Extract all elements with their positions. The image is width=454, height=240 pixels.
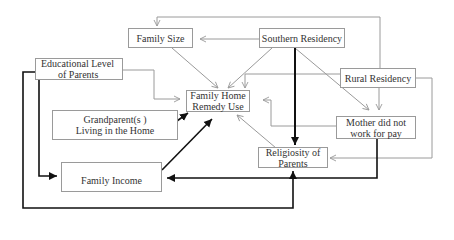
node-grandparents-living-in-home: Grandparent(s ) Living in the Home (52, 110, 178, 140)
edge-grandparents-to-remedy (177, 113, 188, 121)
edge-family-size-to-remedy (172, 48, 218, 88)
religiosity-line1: Religiosity of (266, 147, 321, 158)
node-rural-residency: Rural Residency (340, 68, 416, 88)
node-family-home-remedy-use[interactable]: Family Home Remedy Use (186, 90, 250, 112)
mother-line1: Mother did not (346, 117, 406, 128)
node-mother-did-not-work: Mother did not work for pay (336, 116, 416, 139)
educational-level-line2: of Parents (41, 69, 98, 80)
family-size-label: Family Size (136, 33, 184, 44)
node-southern-residency: Southern Residency (259, 28, 345, 48)
rural-residency-label: Rural Residency (345, 73, 411, 84)
edge-religiosity-to-remedy (237, 115, 276, 148)
religiosity-line2: Parents (278, 158, 307, 169)
family-home-remedy-line2: Remedy Use (192, 101, 243, 112)
edge-rural-to-remedy (245, 74, 340, 88)
node-family-income: Family Income (61, 162, 162, 192)
family-home-remedy-line1: Family Home (190, 90, 245, 101)
node-educational-level: Educational Level of Parents (35, 58, 123, 80)
southern-residency-label: Southern Residency (262, 33, 342, 44)
grandparents-line1: Grandparent(s ) (83, 114, 146, 125)
family-income-label: Family Income (81, 175, 142, 186)
node-family-size: Family Size (128, 28, 193, 48)
edge-mother-to-remedy (263, 100, 337, 126)
edge-education-to-remedy (122, 70, 180, 99)
node-religiosity-of-parents: Religiosity of Parents (258, 147, 328, 168)
grandparents-line2: Living in the Home (76, 125, 155, 136)
edge-southern-to-remedy (228, 48, 272, 88)
mother-line2: work for pay (350, 128, 402, 139)
educational-level-line1: Educational Level (41, 58, 114, 69)
